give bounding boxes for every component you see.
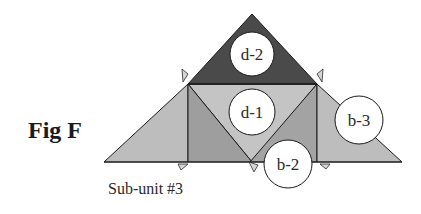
triangle-assembly-diagram: d-2 d-1 b-3 b-2	[0, 0, 421, 214]
label-b-3: b-3	[335, 96, 383, 144]
svg-text:b-3: b-3	[348, 111, 371, 130]
left-triangle-piece	[104, 84, 188, 162]
svg-text:d-1: d-1	[241, 103, 264, 122]
flap-marker-top-left	[182, 69, 188, 82]
label-b-2: b-2	[264, 140, 312, 188]
svg-text:d-2: d-2	[241, 45, 264, 64]
label-d-1: d-1	[229, 89, 275, 135]
flap-marker-top-right	[317, 69, 323, 82]
fig-f-diagram: d-2 d-1 b-3 b-2 Fig F Sub-unit #3	[0, 0, 421, 214]
flap-marker-bottom-right	[320, 164, 330, 169]
flap-marker-bottom-center	[249, 162, 258, 172]
flap-marker-bottom-left	[178, 164, 188, 170]
figure-caption: Sub-unit #3	[108, 180, 183, 198]
label-d-2: d-2	[230, 32, 274, 76]
figure-title: Fig F	[28, 117, 82, 144]
svg-text:b-2: b-2	[277, 155, 300, 174]
